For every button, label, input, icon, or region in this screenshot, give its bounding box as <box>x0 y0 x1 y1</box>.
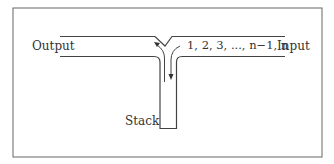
push-arrow <box>171 46 180 76</box>
input-label: Input <box>277 40 310 52</box>
pop-arrow <box>157 45 165 82</box>
sequence-label: 1, 2, 3, ..., n−1, n <box>187 40 288 52</box>
push-arrowhead-icon <box>169 74 174 80</box>
output-label: Output <box>32 40 75 52</box>
stack-and-bottom-rail <box>60 57 285 129</box>
railway-stack-diagram <box>0 0 334 164</box>
stack-label: Stack <box>125 115 159 127</box>
frame-border <box>13 8 322 157</box>
